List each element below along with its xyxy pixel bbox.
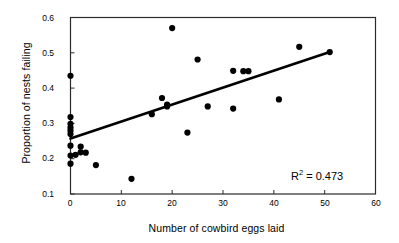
x-tick-label: 0 [55,199,85,208]
x-axis-label: Number of cowbird eggs laid [58,222,375,234]
y-tick-label: 0.2 [30,154,54,163]
data-point [230,105,236,111]
x-tick-label: 10 [106,199,136,208]
data-point [276,96,282,102]
data-points [67,25,332,182]
data-point [327,49,333,55]
plot-frame [71,18,376,195]
data-point [184,129,190,135]
data-point [67,161,73,167]
data-point [67,131,73,137]
x-tick-label: 50 [310,199,340,208]
x-tick-label: 40 [259,199,289,208]
x-tick-label: 30 [208,199,238,208]
data-point [296,44,302,50]
y-tick-label: 0.6 [30,14,54,23]
data-point [230,68,236,74]
data-point [159,95,165,101]
data-point [194,56,200,62]
data-point [128,176,134,182]
data-point [205,103,211,109]
axis-tickmarks [71,18,376,195]
y-tick-label: 0.3 [30,119,54,128]
data-point [164,103,170,109]
x-tick-label: 20 [157,199,187,208]
data-point [78,144,84,150]
data-point [67,143,73,149]
r-squared-annotation: R2 = 0.473 [291,170,343,182]
data-point [67,114,73,120]
x-tick-label: 60 [361,199,391,208]
scatter-plot-figure: Proportion of nests failing 0.6 0.5 0.4 … [0,0,399,243]
x-axis-tick-labels: 0 10 20 30 40 50 60 [0,199,399,211]
y-tick-label: 0.1 [30,190,54,199]
r-squared-suffix: = 0.473 [303,170,343,182]
data-point [67,73,73,79]
trendline-segment [71,52,330,138]
y-tick-label: 0.5 [30,49,54,58]
data-point [169,25,175,31]
r-squared-prefix: R [291,170,299,182]
data-point [83,150,89,156]
data-point [245,68,251,74]
trendline [71,52,330,138]
data-point [149,111,155,117]
data-point [93,162,99,168]
y-tick-label: 0.4 [30,84,54,93]
